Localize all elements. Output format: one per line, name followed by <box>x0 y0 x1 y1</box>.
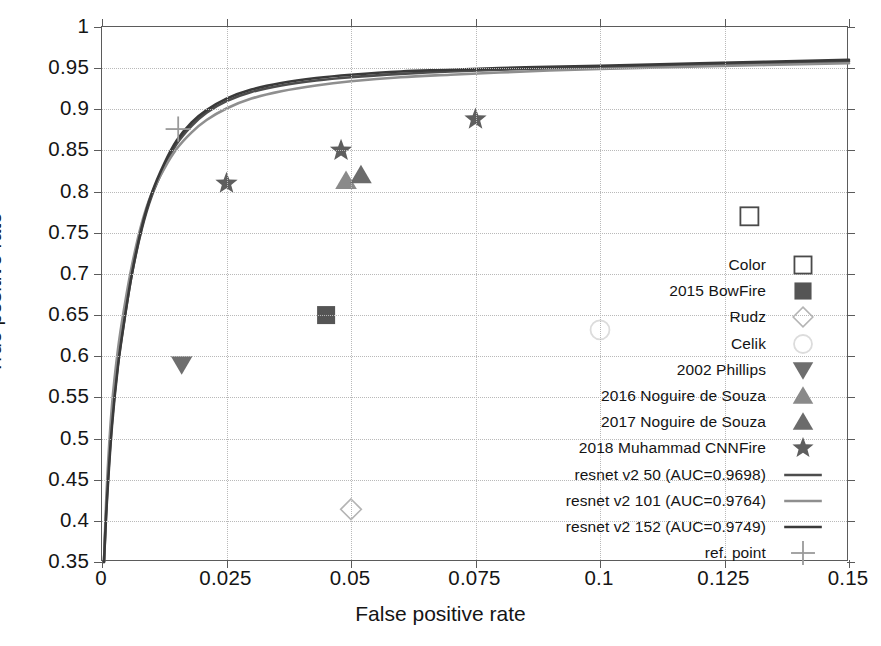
legend-item-marker-up-triangle-light-icon <box>776 383 830 409</box>
legend-item-label: ref. point <box>705 544 776 562</box>
y-axis-tick <box>94 562 102 563</box>
legend-item: Color <box>470 252 830 278</box>
x-axis-tick-top <box>476 19 477 27</box>
y-axis-tick-right <box>847 315 855 316</box>
y-axis-tick <box>94 27 102 28</box>
y-axis-tick-right <box>847 27 855 28</box>
x-axis-tick-label: 0.05 <box>330 566 371 590</box>
y-axis-tick-label: 0.6 <box>60 343 89 367</box>
legend-item-marker-line-darkest-icon <box>776 514 830 540</box>
y-axis-tick <box>94 439 102 440</box>
legend-item-label: 2017 Noguire de Souza <box>601 413 776 431</box>
legend-item-marker-line-dark-icon <box>776 462 830 488</box>
y-axis-tick-label: 0.75 <box>48 220 89 244</box>
y-axis-tick-label: 0.9 <box>60 96 89 120</box>
gridline-horizontal <box>102 192 847 193</box>
legend-item: 2017 Noguire de Souza <box>470 409 830 435</box>
y-axis-tick-right <box>847 233 855 234</box>
legend-item-marker-filled-square-icon <box>776 278 830 304</box>
y-axis-tick-label: 0.7 <box>60 261 89 285</box>
legend-item-label: resnet v2 152 (AUC=0.9749) <box>566 518 776 536</box>
y-axis-title: True positive rate <box>0 212 6 373</box>
x-axis-tick-top <box>725 19 726 27</box>
legend-item-label: 2015 BowFire <box>669 282 776 300</box>
y-axis-tick-right <box>847 68 855 69</box>
x-axis-tick-label: 0.125 <box>697 566 749 590</box>
y-axis-tick-label: 0.8 <box>60 179 89 203</box>
y-axis-tick-label: 0.65 <box>48 302 89 326</box>
legend-item: 2002 Phillips <box>470 357 830 383</box>
y-axis-tick-right <box>847 109 855 110</box>
data-point-marker <box>171 356 193 374</box>
x-axis-tick-label: 0.15 <box>828 566 869 590</box>
y-axis-tick-label: 0.4 <box>60 508 89 532</box>
x-axis-tick-label: 0.025 <box>199 566 251 590</box>
legend-item: Rudz <box>470 304 830 330</box>
legend-item-marker-line-mid-icon <box>776 488 830 514</box>
gridline-vertical <box>227 27 228 560</box>
legend-item-label: 2002 Phillips <box>677 361 776 379</box>
y-axis-tick-label: 0.55 <box>48 384 89 408</box>
legend-item-marker-open-diamond-icon <box>776 304 830 330</box>
legend-item: 2018 Muhammad CNNFire <box>470 435 830 461</box>
y-axis-tick-right <box>847 480 855 481</box>
x-axis-tick-top <box>600 19 601 27</box>
y-axis-tick-right <box>847 356 855 357</box>
y-axis-tick <box>94 356 102 357</box>
legend-item-label: Celik <box>731 335 776 353</box>
legend-item: resnet v2 101 (AUC=0.9764) <box>470 488 830 514</box>
legend-item-label: Rudz <box>729 308 776 326</box>
y-axis-tick-label: 1 <box>77 14 89 38</box>
y-axis-tick <box>94 233 102 234</box>
y-axis-tick-right <box>847 397 855 398</box>
legend-item: ref. point <box>470 540 830 566</box>
legend-item-label: Color <box>728 256 776 274</box>
legend-item-label: 2018 Muhammad CNNFire <box>579 439 776 457</box>
legend-item-marker-open-square-icon <box>776 252 830 278</box>
y-axis-tick-right <box>847 521 855 522</box>
legend-item-marker-down-triangle-icon <box>776 357 830 383</box>
legend-item: 2015 BowFire <box>470 278 830 304</box>
y-axis-tick-right <box>847 150 855 151</box>
legend-item-marker-cross-icon <box>776 540 830 566</box>
y-axis-tick <box>94 150 102 151</box>
x-axis-tick-label: 0.1 <box>584 566 613 590</box>
y-axis-tick-label: 0.45 <box>48 467 89 491</box>
gridline-vertical <box>351 27 352 560</box>
legend-item: 2016 Noguire de Souza <box>470 383 830 409</box>
y-axis-tick <box>94 192 102 193</box>
legend: Color2015 BowFireRudzCelik2002 Phillips2… <box>470 252 830 566</box>
y-axis-tick-label: 0.95 <box>48 55 89 79</box>
legend-item: Celik <box>470 331 830 357</box>
data-point-marker <box>350 165 372 183</box>
gridline-horizontal <box>102 68 847 69</box>
y-axis-tick <box>94 109 102 110</box>
legend-item: resnet v2 50 (AUC=0.9698) <box>470 462 830 488</box>
gridline-horizontal <box>102 109 847 110</box>
x-axis-tick-top <box>849 19 850 27</box>
gridline-horizontal <box>102 150 847 151</box>
legend-item-marker-star-icon <box>776 435 830 461</box>
y-axis-tick-label: 0.35 <box>48 549 89 573</box>
x-axis-tick-label: 0 <box>95 566 107 590</box>
y-axis-tick <box>94 315 102 316</box>
x-axis-tick-top <box>351 19 352 27</box>
legend-item-marker-open-circle-icon <box>776 331 830 357</box>
y-axis-tick <box>94 480 102 481</box>
y-axis-tick-label: 0.5 <box>60 426 89 450</box>
legend-item-label: resnet v2 101 (AUC=0.9764) <box>566 492 776 510</box>
x-axis-tick-top <box>227 19 228 27</box>
data-point-marker <box>330 139 352 160</box>
x-axis-title: False positive rate <box>0 602 881 626</box>
legend-item-label: resnet v2 50 (AUC=0.9698) <box>574 466 776 484</box>
gridline-horizontal <box>102 233 847 234</box>
y-axis-tick <box>94 274 102 275</box>
legend-item-marker-up-triangle-dark-icon <box>776 409 830 435</box>
y-axis-tick-right <box>847 439 855 440</box>
legend-item-label: 2016 Noguire de Souza <box>601 387 776 405</box>
y-axis-tick-right <box>847 274 855 275</box>
y-axis-tick-right <box>847 192 855 193</box>
y-axis-tick <box>94 397 102 398</box>
y-axis-tick <box>94 68 102 69</box>
x-axis-tick-top <box>102 19 103 27</box>
